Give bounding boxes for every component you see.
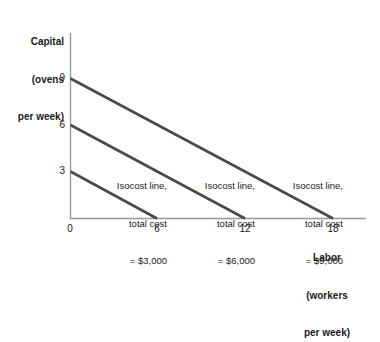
y-tick-label-3: 3 bbox=[47, 165, 65, 176]
y-axis-title-line-1: Capital bbox=[0, 36, 64, 49]
isocost-label-9000: Isocost line, total cost = $9,000 bbox=[248, 155, 343, 293]
isocost-label-3000: Isocost line, total cost = $3,000 bbox=[72, 155, 167, 293]
y-tick-label-9: 9 bbox=[47, 72, 65, 83]
x-axis-title-line-3: per week) bbox=[288, 327, 366, 340]
isocost-label-3000-line-2: total cost bbox=[72, 218, 167, 231]
isocost-label-6000: Isocost line, total cost = $6,000 bbox=[160, 155, 255, 293]
isocost-label-9000-line-1: Isocost line, bbox=[248, 180, 343, 193]
isocost-label-6000-line-2: total cost bbox=[160, 218, 255, 231]
isocost-label-9000-line-2: total cost bbox=[248, 218, 343, 231]
y-tick-label-6: 6 bbox=[47, 119, 65, 130]
isocost-label-9000-line-3: = $9,000 bbox=[248, 255, 343, 268]
isocost-label-3000-line-1: Isocost line, bbox=[72, 180, 167, 193]
isocost-label-6000-line-3: = $6,000 bbox=[160, 255, 255, 268]
isocost-label-6000-line-1: Isocost line, bbox=[160, 180, 255, 193]
isocost-label-3000-line-3: = $3,000 bbox=[72, 255, 167, 268]
